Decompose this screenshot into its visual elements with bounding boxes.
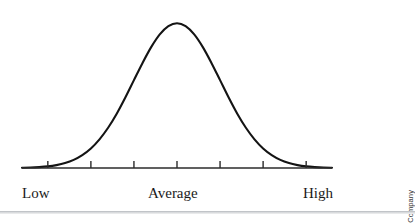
plot-area — [0, 0, 350, 180]
bell-curve-svg — [0, 0, 350, 180]
axis-label-low: Low — [22, 186, 50, 201]
page-divider-shadow — [0, 213, 415, 214]
normal-distribution-curve — [22, 23, 332, 167]
axis-label-average: Average — [148, 186, 198, 201]
copyright-credit: © Kendall Hunt Publishing Company — [407, 190, 415, 224]
bell-curve-figure: Low Average High © Kendall Hunt Publishi… — [0, 0, 415, 224]
x-axis-tick-marks — [48, 161, 306, 168]
axis-label-high: High — [303, 186, 333, 201]
